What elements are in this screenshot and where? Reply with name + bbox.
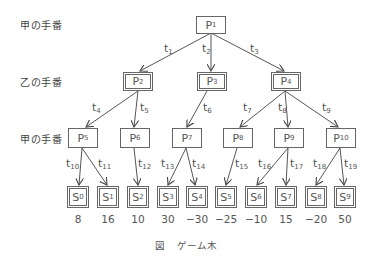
turn-label-player-a-root: 甲の手番 <box>20 17 62 32</box>
node-subscript: 2 <box>139 78 143 86</box>
figure-number: 図 <box>155 240 165 251</box>
edge-label-t1: t1 <box>164 42 173 56</box>
node-label: P <box>181 132 188 145</box>
leaf-value-s6: −10 <box>241 213 271 225</box>
node-p6: P6 <box>120 128 150 148</box>
node-subscript: 4 <box>198 193 202 201</box>
node-p2: P2 <box>123 72 153 91</box>
leaf-s2: S2 <box>127 186 149 208</box>
node-label: P <box>206 75 213 88</box>
edge-label-t9: t9 <box>322 101 331 115</box>
node-subscript: 2 <box>139 193 143 201</box>
game-tree-figure: 甲の手番 乙の手番 甲の手番 P1 P2 P3 P4 P5 P6 P7 P8 P… <box>0 0 373 264</box>
node-label: P <box>77 132 84 145</box>
edge-label-t3: t3 <box>250 42 259 56</box>
edge-label-t16: t16 <box>258 157 271 171</box>
leaf-value-s3: 30 <box>153 213 183 225</box>
edge-label-t14: t14 <box>192 157 205 171</box>
edge-label-t8: t8 <box>278 101 287 115</box>
edge-label-t2: t2 <box>202 42 211 56</box>
edge-t1 <box>140 33 211 71</box>
node-label: S <box>162 191 169 204</box>
edge-t17 <box>286 148 288 185</box>
node-subscript: 1 <box>109 193 113 201</box>
node-subscript: 3 <box>213 78 217 86</box>
node-subscript: 4 <box>287 78 291 86</box>
leaf-value-s4: −30 <box>182 213 212 225</box>
node-subscript: 9 <box>290 134 294 142</box>
node-p8: P8 <box>223 128 253 148</box>
leaf-value-s0: 8 <box>63 213 93 225</box>
node-label: S <box>132 191 139 204</box>
node-subscript: 8 <box>239 134 243 142</box>
node-subscript: 5 <box>84 134 88 142</box>
leaf-s7: S7 <box>275 186 297 208</box>
node-subscript: 0 <box>79 193 83 201</box>
leaf-s6: S6 <box>245 186 267 208</box>
edge-label-t10: t10 <box>66 157 79 171</box>
leaf-value-s8: −20 <box>301 213 331 225</box>
node-label: P <box>205 19 212 32</box>
node-p1: P1 <box>196 16 226 34</box>
leaf-s8: S8 <box>305 186 327 208</box>
leaf-s9: S9 <box>334 186 356 208</box>
node-label: S <box>191 191 198 204</box>
node-label: S <box>220 191 227 204</box>
edge-label-t18: t18 <box>313 157 326 171</box>
node-subscript: 3 <box>169 193 173 201</box>
edge-label-t7: t7 <box>243 101 252 115</box>
turn-label-player-b: 乙の手番 <box>20 74 62 89</box>
node-label: P <box>333 132 340 145</box>
edge-label-t13: t13 <box>161 157 174 171</box>
edge-label-t5: t5 <box>140 101 149 115</box>
node-label: P <box>129 132 136 145</box>
node-subscript: 7 <box>287 193 291 201</box>
node-label: P <box>280 75 287 88</box>
edge-label-t6: t6 <box>203 101 212 115</box>
node-p10: P10 <box>326 128 356 148</box>
node-label: S <box>250 191 257 204</box>
leaf-value-s9: 50 <box>330 213 360 225</box>
figure-caption: 図ゲーム木 <box>155 238 217 252</box>
edge-label-t12: t12 <box>138 157 151 171</box>
node-subscript: 1 <box>212 21 216 29</box>
edge-label-t17: t17 <box>290 157 303 171</box>
edge-label-t4: t4 <box>92 101 101 115</box>
leaf-s3: S3 <box>157 186 179 208</box>
node-label: S <box>310 191 317 204</box>
node-label: S <box>72 191 79 204</box>
leaf-s1: S1 <box>97 186 119 208</box>
node-subscript: 6 <box>257 193 261 201</box>
node-subscript: 5 <box>227 193 231 201</box>
node-p4: P4 <box>271 72 301 91</box>
leaf-value-s1: 16 <box>93 213 123 225</box>
node-subscript: 6 <box>136 134 140 142</box>
node-label: S <box>280 191 287 204</box>
node-label: S <box>339 191 346 204</box>
node-label: S <box>102 191 109 204</box>
figure-title: ゲーム木 <box>177 240 217 251</box>
edge-t3 <box>211 33 284 71</box>
node-label: P <box>283 132 290 145</box>
leaf-value-s7: 15 <box>271 213 301 225</box>
node-p3: P3 <box>197 72 227 91</box>
edge-t10 <box>79 148 82 185</box>
leaf-s0: S0 <box>67 186 89 208</box>
node-label: P <box>232 132 239 145</box>
edge-label-t11: t11 <box>98 157 111 171</box>
node-label: P <box>132 75 139 88</box>
node-subscript: 8 <box>317 193 321 201</box>
edge-label-t15: t15 <box>235 157 248 171</box>
leaf-s4: S4 <box>186 186 208 208</box>
edge-t5 <box>134 91 138 127</box>
node-p5: P5 <box>68 128 98 148</box>
node-subscript: 10 <box>340 134 349 142</box>
edge-label-t19: t19 <box>344 157 357 171</box>
leaf-value-s5: −25 <box>211 213 241 225</box>
node-p7: P7 <box>172 128 202 148</box>
leaf-s5: S5 <box>215 186 237 208</box>
node-subscript: 9 <box>346 193 350 201</box>
node-subscript: 7 <box>188 134 192 142</box>
node-p9: P9 <box>274 128 304 148</box>
turn-label-player-a: 甲の手番 <box>20 131 62 146</box>
